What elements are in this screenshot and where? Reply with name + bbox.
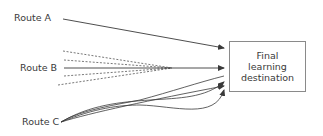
final-destination-box: Final learning destination	[229, 41, 306, 92]
destination-line-3: destination	[241, 72, 294, 83]
route-b-label: Route B	[20, 62, 57, 73]
destination-line-2: learning	[241, 61, 294, 72]
route-a-label: Route A	[14, 12, 51, 23]
route-a-line	[63, 19, 224, 48]
destination-line-1: Final	[241, 50, 294, 61]
route-c-label: Route C	[22, 116, 59, 127]
destination-text: Final learning destination	[241, 50, 294, 83]
route-c-curves	[61, 76, 224, 122]
